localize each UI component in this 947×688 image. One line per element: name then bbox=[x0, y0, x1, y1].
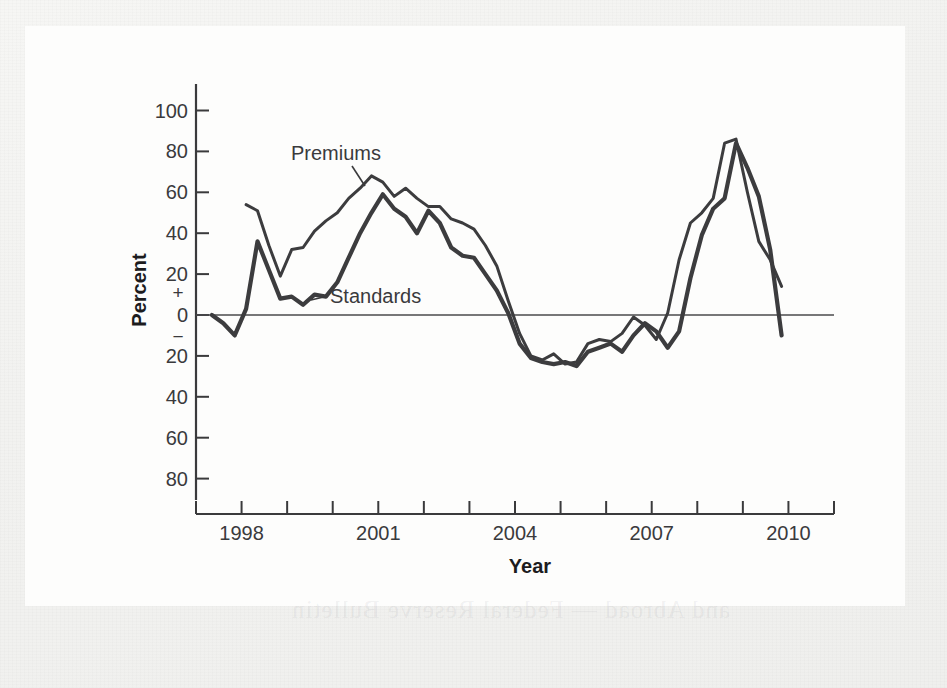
y-axis-tick-label: 20 bbox=[166, 345, 188, 367]
y-axis-ticks bbox=[196, 111, 209, 479]
y-axis-tick-label: 80 bbox=[166, 140, 188, 162]
series-line-standards bbox=[212, 143, 782, 366]
annotation-leader-premiums bbox=[352, 166, 365, 186]
y-axis-negative-sign: − bbox=[172, 326, 183, 347]
x-axis-tick-label: 2007 bbox=[629, 522, 674, 544]
annotation-label-premiums: Premiums bbox=[291, 142, 381, 164]
y-axis-positive-sign: + bbox=[172, 282, 183, 303]
x-axis-ticks bbox=[196, 501, 834, 514]
x-axis-tick-labels: 19982001200420072010 bbox=[219, 522, 810, 544]
x-axis-tick-label: 2001 bbox=[356, 522, 401, 544]
y-axis-tick-label: 40 bbox=[166, 222, 188, 244]
line-chart: 10080604020020406080 + − Percent 1998200… bbox=[0, 0, 947, 688]
y-axis-tick-label: 100 bbox=[155, 100, 188, 122]
y-axis-tick-label: 60 bbox=[166, 427, 188, 449]
y-axis-tick-label: 0 bbox=[177, 304, 188, 326]
y-axis-tick-label: 40 bbox=[166, 386, 188, 408]
x-axis: 19982001200420072010 Year bbox=[196, 501, 834, 577]
y-axis-title: Percent bbox=[128, 253, 150, 327]
annotation-standards: Standards bbox=[311, 285, 421, 307]
y-axis-tick-label: 60 bbox=[166, 181, 188, 203]
y-axis-tick-label: 80 bbox=[166, 468, 188, 490]
x-axis-tick-label: 1998 bbox=[219, 522, 264, 544]
x-axis-tick-label: 2010 bbox=[766, 522, 811, 544]
annotation-label-standards: Standards bbox=[330, 285, 421, 307]
scanned-page-background: and Abroad — Federal Reserve Bulletin 10… bbox=[0, 0, 947, 688]
y-axis: 10080604020020406080 + − Percent bbox=[128, 84, 209, 500]
x-axis-tick-label: 2004 bbox=[493, 522, 538, 544]
x-axis-title: Year bbox=[509, 555, 551, 577]
data-series-group bbox=[212, 139, 782, 366]
